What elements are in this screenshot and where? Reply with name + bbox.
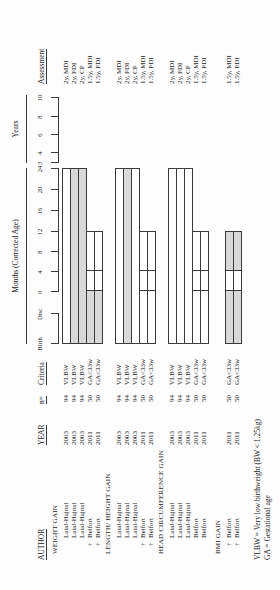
birth-disc-tick-label: Birth xyxy=(36,337,43,350)
bar-segment xyxy=(95,291,102,343)
months-axis-label: Months (Corrected Age) xyxy=(11,168,20,344)
bar-segment xyxy=(124,169,131,343)
bar-segment xyxy=(226,271,233,291)
study-row: Latal-Hajnal200394VLBW2y, PDI xyxy=(70,0,78,590)
assessment-column-header: Assessment xyxy=(37,49,47,84)
author-cell: Belfort xyxy=(225,518,233,538)
criteria-cell: VLBW xyxy=(78,364,86,385)
footnote-line: GA = Gestational age xyxy=(263,0,273,560)
criteria-cell: GA<33w xyxy=(94,359,102,385)
study-row: †Belfort201150GA<33w1.5y, MDI xyxy=(86,0,94,590)
sample-size-cell: 94 xyxy=(123,395,131,402)
author-cell: Belfort xyxy=(147,518,155,538)
timeline-bar xyxy=(200,231,209,344)
author-column-header: AUTHOR xyxy=(37,529,47,560)
assessment-cell: 2y, PDI xyxy=(176,63,184,84)
assessment-cell: 1.5y, PDI xyxy=(94,57,102,84)
sample-size-cell: 94 xyxy=(184,395,192,402)
study-row: †Belfort201150GA<33w1.5y, PDI xyxy=(147,0,155,590)
dagger-marker: † xyxy=(225,543,233,547)
author-cell: Belfort xyxy=(139,518,147,538)
author-cell: Latal-Hajnal xyxy=(115,503,123,538)
sample-size-cell: 50 xyxy=(86,395,94,402)
study-row: Latal-Hajnal200394VLBW2y, MDI xyxy=(62,0,70,590)
n-column-header: n= xyxy=(37,396,47,404)
year-cell: 2011 xyxy=(225,431,233,445)
bar-segment xyxy=(193,291,200,343)
bar-segment xyxy=(234,232,241,271)
sample-size-cell: 50 xyxy=(225,395,233,402)
author-cell: Latal-Hajnal xyxy=(70,503,78,538)
bar-segment xyxy=(148,291,155,343)
author-cell: Belfort xyxy=(200,518,208,538)
study-row: Latal-Hajnal200394VLBW2y, PDI xyxy=(176,0,184,590)
year-cell: 2003 xyxy=(115,431,123,445)
year-cell: 2003 xyxy=(70,431,78,445)
sample-size-cell: 50 xyxy=(200,395,208,402)
criteria-cell: VLBW xyxy=(168,364,176,385)
assessment-cell: 1.5y, PDI xyxy=(233,57,241,84)
year-cell: 2011 xyxy=(192,431,200,445)
study-row: †Belfort201150GA<33w1.5y, MDI xyxy=(139,0,147,590)
criteria-cell: VLBW xyxy=(115,364,123,385)
study-row: Belfort201150GA<33w1.5y, PDI xyxy=(200,0,208,590)
assessment-cell: 2y, CP xyxy=(78,65,86,84)
author-cell: Latal-Hajnal xyxy=(184,503,192,538)
year-cell: 2003 xyxy=(184,431,192,445)
sample-size-cell: 50 xyxy=(147,395,155,402)
bar-segment xyxy=(87,232,94,271)
author-cell: Latal-Hajnal xyxy=(176,503,184,538)
author-cell: Latal-Hajnal xyxy=(131,503,139,538)
bar-segment xyxy=(201,271,208,291)
criteria-cell: GA<33w xyxy=(86,359,94,385)
criteria-cell: GA<33w xyxy=(225,359,233,385)
bar-segment xyxy=(95,232,102,271)
year-cell: 2003 xyxy=(62,431,70,445)
criteria-cell: GA<33w xyxy=(200,359,208,385)
criteria-cell: VLBW xyxy=(62,364,70,385)
bar-segment xyxy=(140,232,147,271)
assessment-cell: 1.5y, PDI xyxy=(200,57,208,84)
criteria-cell: GA<33w xyxy=(192,359,200,385)
year-cell: 2011 xyxy=(200,431,208,445)
assessment-cell: 2y, CP xyxy=(184,65,192,84)
study-row: †Belfort201150GA<33w1.5y, PDI xyxy=(233,0,241,590)
study-row: Latal-Hajnal200394VLBW2y, PDI xyxy=(123,0,131,590)
group-title: BMI GAIN xyxy=(212,0,225,590)
criteria-cell: GA<33w xyxy=(233,359,241,385)
group-title: LENGTH/ HEIGHT GAIN xyxy=(102,0,115,590)
months-tick-label: 24 xyxy=(36,166,43,173)
bar-segment xyxy=(132,169,139,343)
year-cell: 2003 xyxy=(123,431,131,445)
assessment-cell: 1.5y, PDI xyxy=(147,57,155,84)
year-cell: 2011 xyxy=(86,431,94,445)
months-tick-label: 20 xyxy=(36,187,43,194)
years-axis-underline xyxy=(26,95,27,163)
bar-segment xyxy=(95,271,102,291)
assessment-cell: 1.5y, MDI xyxy=(86,55,94,84)
author-cell: Latal-Hajnal xyxy=(168,503,176,538)
sample-size-cell: 50 xyxy=(233,395,241,402)
bar-segment xyxy=(234,271,241,291)
years-tick-label: 4 xyxy=(36,151,43,154)
author-cell: Belfort xyxy=(233,518,241,538)
sample-size-cell: 94 xyxy=(115,395,123,402)
author-cell: Latal-Hajnal xyxy=(78,503,86,538)
year-cell: 2011 xyxy=(233,431,241,445)
bar-segment xyxy=(140,291,147,343)
criteria-cell: VLBW xyxy=(123,364,131,385)
criteria-cell: VLBW xyxy=(70,364,78,385)
bar-segment xyxy=(201,232,208,271)
study-row: Latal-Hajnal200394VLBW2y, CP xyxy=(131,0,139,590)
bar-segment xyxy=(116,169,123,343)
years-tick-label: 10 xyxy=(36,95,43,102)
dagger-marker: † xyxy=(147,543,155,547)
year-column-header: YEAR xyxy=(37,425,47,445)
bar-segment xyxy=(234,291,241,343)
years-axis-label: Years xyxy=(11,95,20,163)
sample-size-cell: 94 xyxy=(78,395,86,402)
footnotes: VLBW = Very low birthweight (BW < 1.25kg… xyxy=(253,0,273,590)
assessment-cell: 2y, PDI xyxy=(70,63,78,84)
months-tick-label: 16 xyxy=(36,208,43,215)
birth-disc-tick-label: Disc xyxy=(36,308,43,320)
